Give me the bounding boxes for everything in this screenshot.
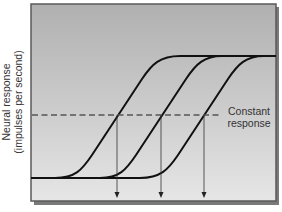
annotation-line2: response (227, 117, 270, 129)
constant-response-annotation: Constant response (227, 105, 270, 129)
sigmoid-chart: Neural response (impulses per second) Co… (0, 0, 282, 212)
y-axis-label-line2: (impulses per second) (12, 50, 24, 153)
plot-area (31, 4, 276, 201)
y-axis-label-line1: Neural response (0, 63, 12, 140)
y-axis-label: Neural response (impulses per second) (0, 50, 24, 153)
annotation-line1: Constant (228, 105, 270, 117)
